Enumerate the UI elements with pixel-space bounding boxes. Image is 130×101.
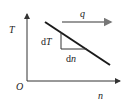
axis-x-label: n [98, 91, 103, 101]
axis-y-label: T [9, 25, 15, 35]
dn-label: dn [66, 54, 76, 64]
flux-label: q [80, 9, 85, 19]
dT-var: T [46, 36, 52, 47]
temperature-gradient-diagram: T n O q dT dn [0, 0, 130, 101]
origin-label: O [16, 82, 23, 92]
temperature-line [45, 22, 110, 65]
dT-label: dT [41, 37, 52, 47]
dn-var: n [71, 53, 76, 64]
